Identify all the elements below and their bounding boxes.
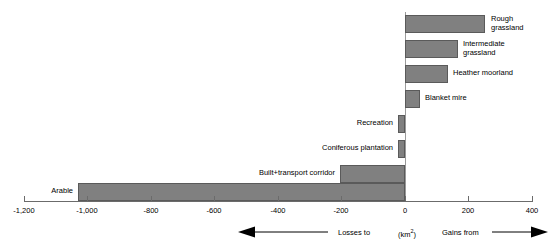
axis-tick: [278, 196, 279, 202]
units-label: (km2): [398, 228, 416, 239]
bar-label-heather-moorland: Heather moorland: [453, 68, 543, 77]
bar-row[interactable]: Recreation: [0, 112, 553, 137]
axis-tick: [151, 196, 152, 202]
gains-from-label: Gains from: [442, 228, 479, 237]
bar-label-arable: Arable: [18, 186, 73, 195]
bar-rough-grassland[interactable]: [405, 15, 485, 33]
axis-tick: [87, 196, 88, 202]
bar-row[interactable]: Rough grassland: [0, 12, 553, 37]
bar-intermediate-grassland[interactable]: [405, 40, 458, 58]
axis-tick-label: 0: [403, 206, 407, 215]
plot-area: Rough grassland Intermediate grassland H…: [0, 0, 553, 200]
bar-blanket-mire[interactable]: [405, 90, 420, 108]
bar-heather-moorland[interactable]: [405, 65, 448, 83]
bar-label-blanket-mire: Blanket mire: [425, 93, 505, 102]
units-close: ): [414, 230, 417, 239]
bar-row[interactable]: Blanket mire: [0, 87, 553, 112]
axis-tick-label: 400: [526, 206, 539, 215]
bar-row[interactable]: Intermediate grassland: [0, 37, 553, 62]
bar-recreation[interactable]: [398, 115, 405, 133]
bar-label-rough-grassland: Rough grassland: [491, 14, 551, 32]
axis-tick-label: -200: [333, 206, 348, 215]
axis-tick: [405, 196, 406, 202]
axis-tick-label: -600: [206, 206, 221, 215]
axis-direction-legend: Losses to (km2) Gains from: [0, 224, 553, 246]
axis-tick-label: -1,000: [76, 206, 97, 215]
bar-row[interactable]: Heather moorland: [0, 62, 553, 87]
right-arrow-icon: [492, 226, 548, 238]
bar-row[interactable]: Coniferous plantation: [0, 137, 553, 162]
bar-coniferous-plantation[interactable]: [398, 140, 405, 158]
axis-tick: [214, 196, 215, 202]
bar-label-recreation: Recreation: [288, 118, 393, 127]
axis-tick: [341, 196, 342, 202]
losses-to-label: Losses to: [338, 228, 370, 237]
axis-tick: [532, 196, 533, 202]
bar-arable[interactable]: [78, 183, 405, 201]
axis-tick: [468, 196, 469, 202]
land-cover-change-chart: Rough grassland Intermediate grassland H…: [0, 0, 553, 246]
axis-tick: [24, 196, 25, 202]
units-open: (km: [398, 230, 411, 239]
bar-label-intermediate-grassland: Intermediate grassland: [463, 39, 543, 57]
axis-tick-label: -400: [270, 206, 285, 215]
left-arrow-icon: [238, 226, 328, 238]
bar-label-coniferous-plantation: Coniferous plantation: [268, 143, 393, 152]
bar-label-built-transport-corridor: Built+transport corridor: [210, 168, 335, 177]
axis-tick-label: 200: [462, 206, 475, 215]
axis-tick-label: -1,200: [13, 206, 34, 215]
axis-tick-label: -800: [143, 206, 158, 215]
